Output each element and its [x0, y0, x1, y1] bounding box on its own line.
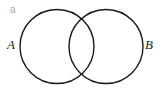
set-b-label: B: [145, 37, 153, 53]
venn-svg: [0, 0, 160, 91]
set-a-label: A: [7, 37, 15, 53]
set-b-circle: [69, 10, 143, 84]
set-a-circle: [20, 10, 94, 84]
